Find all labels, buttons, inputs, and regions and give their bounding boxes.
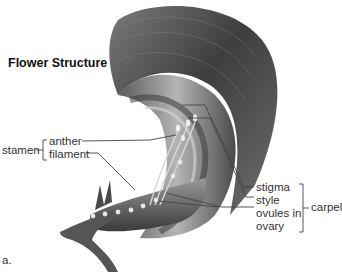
- ovules-label: ovules in: [256, 207, 301, 220]
- stamen-label: stamen: [2, 144, 40, 157]
- style-label: style: [256, 194, 280, 207]
- carpel-label: carpel: [311, 201, 342, 214]
- ovary-label: ovary: [256, 220, 284, 233]
- panel-label: a.: [2, 254, 12, 267]
- figure-title: Flower Structure: [8, 56, 107, 70]
- filament-label: filament: [49, 148, 89, 161]
- stigma-label: stigma: [256, 181, 290, 194]
- anther-label: anther: [49, 135, 82, 148]
